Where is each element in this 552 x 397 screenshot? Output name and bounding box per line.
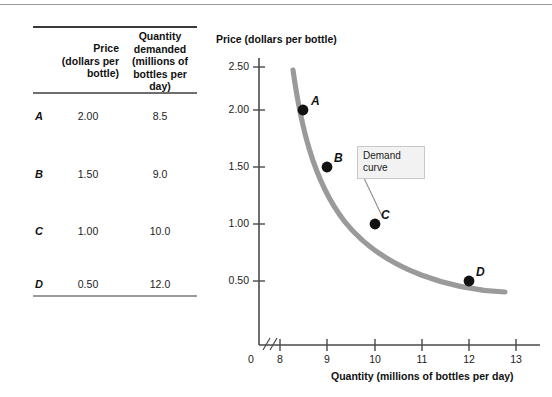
y-tick-label-1-50: 1.50: [215, 160, 249, 172]
data-point-label-c: C: [381, 208, 390, 222]
data-point-c: [370, 219, 381, 230]
demand-curve-path: [293, 70, 505, 292]
data-point-b: [322, 162, 333, 173]
data-point-label-b: B: [334, 151, 343, 165]
demand-curve-callout-line1: Demand: [363, 150, 419, 162]
chart-svg: [0, 0, 552, 397]
axis-break-slash-2: [270, 338, 277, 350]
x-tick-label-13: 13: [506, 353, 526, 365]
data-point-label-a: A: [311, 94, 320, 108]
y-tick-label-0-50: 0.50: [215, 274, 249, 286]
x-tick-label-10: 10: [365, 353, 385, 365]
data-point-label-d: D: [476, 265, 485, 279]
data-point-a: [298, 105, 309, 116]
data-point-d: [464, 276, 475, 287]
demand-curve-chart: Price (dollars per bottle) Quantity (mil…: [0, 0, 552, 397]
demand-curve-callout: Demand curve: [357, 146, 425, 179]
y-tick-label-2-00: 2.00: [215, 103, 249, 115]
figure-container: Price (dollars per bottle) Quantity dema…: [0, 0, 552, 397]
x-tick-label-11: 11: [412, 353, 432, 365]
axis-break-slash-1: [263, 338, 270, 350]
x-tick-label-9: 9: [317, 353, 337, 365]
origin-label: 0: [248, 353, 254, 365]
x-tick-label-12: 12: [459, 353, 479, 365]
y-tick-label-2-50: 2.50: [215, 60, 249, 72]
callout-leader-line: [363, 176, 382, 216]
y-tick-label-1-00: 1.00: [215, 217, 249, 229]
x-tick-label-8: 8: [270, 353, 290, 365]
demand-curve-callout-line2: curve: [363, 162, 419, 174]
